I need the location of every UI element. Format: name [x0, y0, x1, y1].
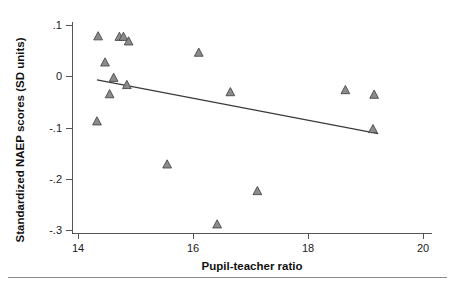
- data-point: [370, 90, 379, 98]
- y-tick-label-3: -.2: [49, 173, 62, 185]
- y-tick-label-0: .1: [53, 19, 62, 31]
- y-axis-title: Standardized NAEP scores (SD units): [14, 37, 26, 242]
- y-tick-label-4: -.3: [49, 224, 62, 236]
- data-point: [213, 220, 222, 228]
- x-tick-label-0: 14: [72, 242, 84, 254]
- y-tick-label-2: -.1: [49, 122, 62, 134]
- y-tick-label-1: 0: [56, 70, 62, 82]
- x-tick-label-3: 20: [417, 242, 429, 254]
- data-point: [163, 160, 172, 168]
- data-point: [341, 85, 350, 93]
- data-point: [226, 88, 235, 96]
- data-point: [93, 117, 102, 125]
- x-tick-label-1: 16: [187, 242, 199, 254]
- data-point: [194, 48, 203, 56]
- data-point: [109, 73, 118, 81]
- x-axis-title: Pupil-teacher ratio: [202, 260, 303, 272]
- data-point: [101, 58, 110, 66]
- regression-line: [97, 80, 378, 134]
- x-tick-label-2: 18: [302, 242, 314, 254]
- data-point: [94, 32, 103, 40]
- scatter-plot-figure: Standardized NAEP scores (SD units) .1 0…: [0, 0, 455, 287]
- data-point: [105, 90, 114, 98]
- data-point: [253, 186, 262, 194]
- data-point: [369, 124, 378, 132]
- scatter-markers: [93, 32, 379, 228]
- chart-canvas: Standardized NAEP scores (SD units) .1 0…: [0, 0, 455, 287]
